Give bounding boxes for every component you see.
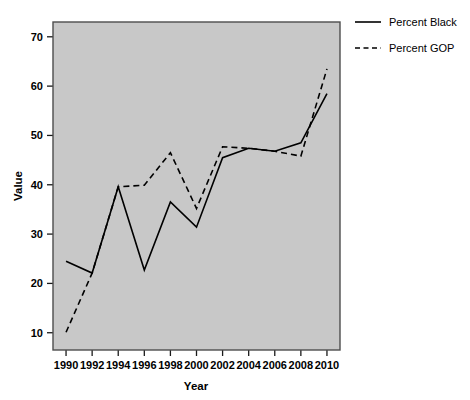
x-tick-label: 1996	[132, 359, 156, 371]
y-axis-title: Value	[12, 171, 24, 201]
x-axis-title: Year	[184, 380, 209, 392]
y-tick-label: 30	[31, 228, 43, 240]
x-tick-label: 1998	[158, 359, 182, 371]
y-tick-label: 10	[31, 327, 43, 339]
y-tick-label: 70	[31, 31, 43, 43]
y-tick-label: 20	[31, 277, 43, 289]
x-tick-label: 2008	[289, 359, 313, 371]
legend-label: Percent Black	[389, 16, 457, 28]
x-tick-label: 1990	[54, 359, 78, 371]
plot-panel-background	[53, 22, 340, 350]
x-tick-label: 2000	[184, 359, 208, 371]
y-tick-label: 50	[31, 129, 43, 141]
y-tick-label: 60	[31, 80, 43, 92]
x-tick-label: 1994	[106, 359, 131, 371]
line-chart: 10203040506070 1990199219941996199820002…	[0, 0, 470, 400]
x-tick-label: 2006	[263, 359, 287, 371]
y-tick-label: 40	[31, 179, 43, 191]
x-tick-label: 2004	[236, 359, 261, 371]
x-tick-label: 2002	[210, 359, 234, 371]
x-tick-label: 1992	[80, 359, 104, 371]
legend-label: Percent GOP	[389, 42, 454, 54]
x-tick-label: 2010	[315, 359, 339, 371]
chart-figure: 10203040506070 1990199219941996199820002…	[0, 0, 470, 400]
